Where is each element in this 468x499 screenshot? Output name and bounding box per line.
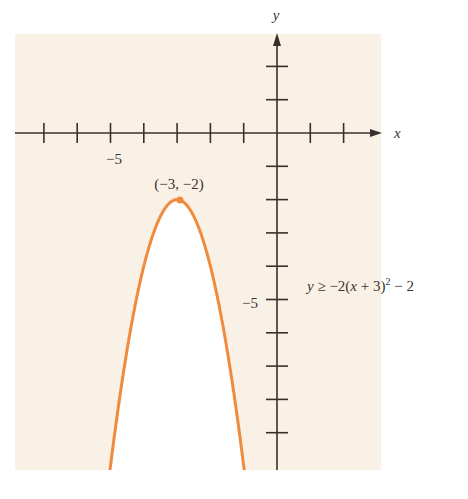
- x-tick-label-minus5: −5: [106, 151, 122, 167]
- inequality-label: y ≥ −2(x + 3)2 − 2: [305, 276, 414, 295]
- x-axis-label: x: [393, 125, 401, 141]
- y-tick-label-minus5: −5: [242, 295, 258, 311]
- vertex-label: (−3, −2): [154, 176, 203, 193]
- y-axis-label: y: [271, 7, 280, 23]
- parabola-inequality-chart: y x −5 −5 (−3, −2) y ≥ −2(x + 3)2 − 2: [0, 0, 468, 499]
- vertex-marker: [177, 197, 184, 204]
